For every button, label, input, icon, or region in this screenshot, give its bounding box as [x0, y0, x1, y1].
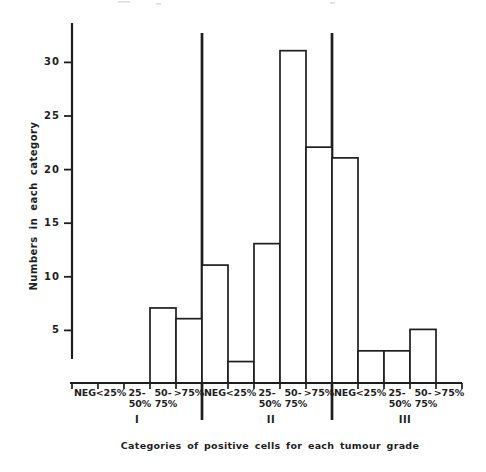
y-axis-title: Numbers in each category [28, 121, 39, 290]
category-tick-label: 75% [409, 399, 443, 409]
bar [358, 351, 384, 383]
bar [332, 158, 358, 383]
category-tick-label: 75% [149, 399, 183, 409]
tumour-grade-group-label: I [124, 414, 150, 425]
category-tick-label: 75% [279, 399, 313, 409]
tumour-grade-group-label: II [258, 414, 284, 425]
x-axis-title: Categories of positive cells for each tu… [110, 440, 430, 451]
scan-artifact [156, 3, 161, 5]
scan-artifact [330, 2, 335, 4]
bar [306, 147, 332, 383]
bar [410, 329, 436, 383]
bar [384, 351, 410, 383]
bar [150, 308, 176, 383]
bar [176, 319, 202, 383]
scanned-bar-chart-figure: Numbers in each category Categories of p… [0, 0, 486, 472]
bar [202, 265, 228, 383]
y-tick-label: 15 [34, 217, 60, 228]
y-tick-label: 5 [34, 324, 60, 335]
y-tick-label: 20 [34, 164, 60, 175]
y-tick-label: 30 [34, 56, 60, 67]
category-tick-label: >75% [432, 388, 466, 398]
bar [254, 244, 280, 383]
bar [228, 362, 254, 383]
tumour-grade-group-label: III [392, 414, 418, 425]
y-tick-label: 10 [34, 271, 60, 282]
y-tick-label: 25 [34, 110, 60, 121]
bar [280, 51, 306, 383]
scan-artifact [118, 1, 130, 3]
